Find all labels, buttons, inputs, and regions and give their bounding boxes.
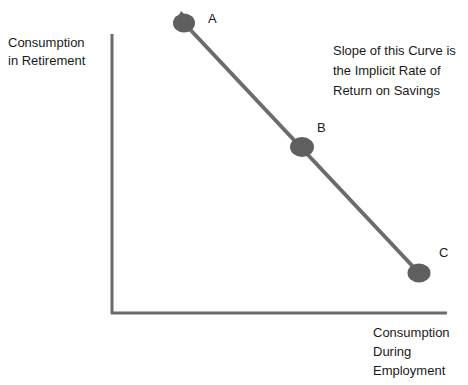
point-c-marker (408, 264, 431, 283)
x-axis-label: Consumption During Employment (373, 323, 450, 380)
point-b-label: B (317, 121, 326, 135)
point-c-label: C (439, 246, 448, 260)
annotation-line-2: the Implicit Rate of (333, 61, 456, 81)
x-axis-label-line-1: Consumption (373, 323, 450, 342)
annotation-line-3: Return on Savings (333, 81, 456, 101)
y-axis-label: Consumption in Retirement (8, 34, 85, 70)
y-axis-label-line-1: Consumption (8, 34, 85, 52)
annotation-line-1: Slope of this Curve is (333, 41, 456, 61)
x-axis-label-line-3: Employment (373, 361, 450, 380)
point-a-label: A (208, 12, 217, 26)
y-axis-label-line-2: in Retirement (8, 52, 85, 70)
x-axis-label-line-2: During (373, 342, 450, 361)
point-a-marker (173, 14, 195, 33)
point-b-marker (290, 137, 314, 157)
slope-annotation: Slope of this Curve is the Implicit Rate… (333, 41, 456, 101)
